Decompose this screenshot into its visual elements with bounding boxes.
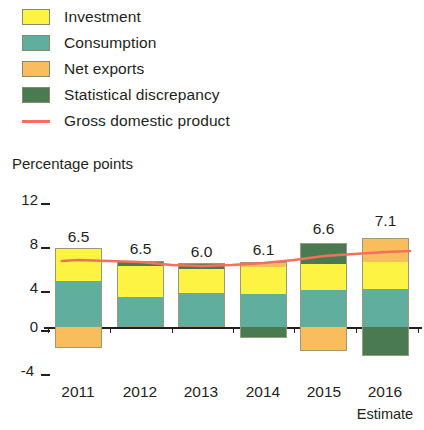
gdp-line-series: [0, 0, 424, 430]
x-axis-note-estimate: Estimate: [345, 406, 424, 422]
x-axis-label-2011: 2011: [48, 383, 108, 401]
x-axis-label-2013: 2013: [171, 383, 231, 401]
x-axis-label-2015: 2015: [294, 383, 354, 401]
gdp-polyline: [62, 251, 410, 266]
x-axis-label-2016: 2016: [355, 383, 415, 401]
x-axis-label-2014: 2014: [233, 383, 293, 401]
chart-plot-area: 12 8 4 0 -4 6.5 6.5 6.0 6.1: [0, 0, 424, 430]
x-axis-label-2012: 2012: [110, 383, 170, 401]
